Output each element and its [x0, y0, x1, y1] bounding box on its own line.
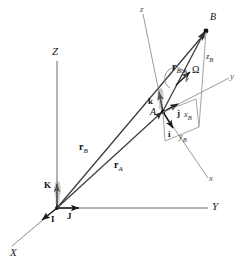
unit-vector-label-I: I — [51, 215, 55, 224]
unit-vector-label-j: j — [177, 109, 180, 118]
component-line-zB — [199, 32, 206, 127]
axis-label-Z: Z — [52, 46, 58, 57]
component-subscript-xB: B — [188, 114, 192, 121]
unit-vector-label-i: i — [168, 130, 171, 139]
point-label-A: A — [150, 107, 156, 117]
vector-subscript-r-B: B — [83, 147, 87, 155]
vector-label-r-B-over-A: rB/A — [172, 62, 187, 75]
unit-vector-i — [163, 112, 173, 128]
diagram-svg — [0, 0, 242, 265]
point-label-B: B — [210, 12, 216, 22]
observer-figure-A — [157, 88, 163, 110]
unit-vector-label-k: k — [148, 97, 153, 106]
vector-r-B — [57, 33, 205, 208]
unit-vector-label-K: K — [44, 181, 51, 190]
component-label-yB: yB — [179, 132, 187, 143]
axis-label-z: z — [140, 5, 144, 14]
figure-canvas: Z Y X K J I z y x k j i A B Ω rB rA rB/A… — [0, 0, 242, 265]
vector-label-r-B: rB — [79, 142, 88, 155]
vector-r-A — [57, 112, 162, 208]
angular-velocity-label: Ω — [192, 65, 199, 75]
observer-figure-origin — [54, 181, 61, 204]
unit-vector-label-J: J — [67, 212, 72, 221]
vector-subscript-r-A: A — [118, 165, 122, 173]
axis-label-Y: Y — [212, 201, 218, 212]
vector-label-r-A: rA — [114, 160, 123, 173]
component-label-zB: zB — [206, 52, 213, 63]
component-subscript-zB: B — [209, 56, 213, 63]
axis-label-x: x — [209, 174, 213, 183]
vector-subscript-r-B-over-A: B/A — [176, 67, 187, 75]
axis-label-y: y — [230, 72, 234, 81]
axis-label-X: X — [10, 247, 17, 258]
component-label-xB: xB — [184, 110, 192, 121]
component-subscript-yB: B — [183, 136, 187, 143]
